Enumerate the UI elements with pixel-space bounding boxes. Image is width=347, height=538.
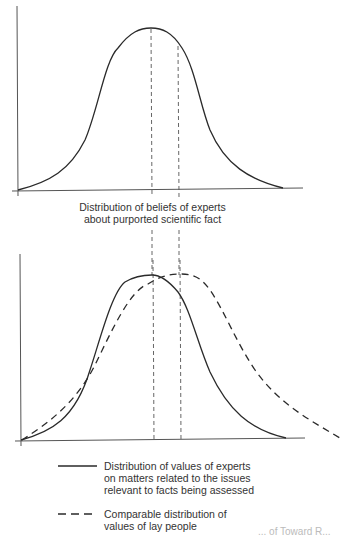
legend-lay-line-2: values of lay people	[104, 520, 227, 532]
top-y-axis	[17, 6, 18, 196]
footer-cutoff-text: ... of Toward R...	[258, 526, 331, 537]
top-chart-caption: Distribution of beliefs of experts about…	[70, 201, 235, 225]
diagram-figure	[0, 0, 347, 538]
bottom-shift-dashed-line	[180, 260, 181, 441]
top-caption-line-2: about purported scientific fact	[70, 213, 235, 225]
legend-experts-line-2: on matters related to the issues	[104, 472, 254, 484]
legend-lay-people: Comparable distribution of values of lay…	[104, 508, 227, 532]
bottom-x-axis	[15, 438, 305, 441]
legend-experts-line-1: Distribution of values of experts	[104, 460, 254, 472]
top-chart	[12, 6, 303, 197]
legend-lay-line-1: Comparable distribution of	[104, 508, 227, 520]
bottom-y-axis	[20, 254, 21, 446]
legend-experts-line-3: relevant to facts being assessed	[104, 484, 254, 496]
top-expert-beliefs-curve	[18, 28, 283, 190]
bottom-mean-dashed-line	[153, 260, 154, 441]
bottom-chart	[15, 254, 340, 446]
top-x-axis	[12, 188, 303, 191]
top-mean-dashed-line	[151, 29, 152, 197]
top-shift-dashed-line	[178, 46, 179, 197]
top-caption-line-1: Distribution of beliefs of experts	[70, 201, 235, 213]
legend-experts-values: Distribution of values of experts on mat…	[104, 460, 254, 496]
